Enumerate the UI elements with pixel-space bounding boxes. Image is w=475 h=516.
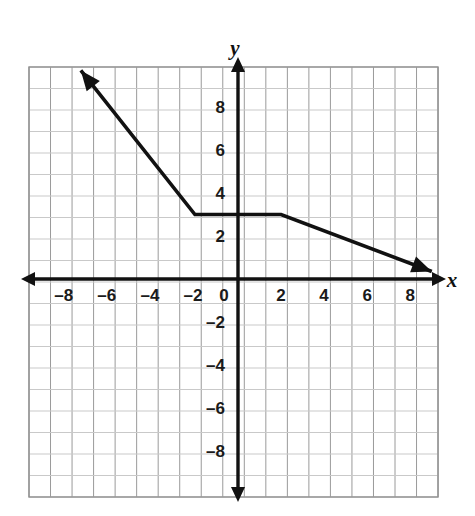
origin-label: 0 xyxy=(219,286,228,305)
x-tick-label: –8 xyxy=(54,286,73,305)
y-tick-label: –6 xyxy=(206,399,225,418)
y-tick-label: –8 xyxy=(206,442,225,461)
x-axis-label: x xyxy=(446,268,458,292)
y-tick-label: –2 xyxy=(206,313,225,332)
y-tick-label: 8 xyxy=(216,98,225,117)
coordinate-graph-figure: –8–6–4–22468 8642–2–4–6–8 0 x y xyxy=(0,0,475,516)
x-tick-label: –6 xyxy=(97,286,116,305)
graph-canvas: –8–6–4–22468 8642–2–4–6–8 0 x y xyxy=(0,0,475,516)
grid-lines xyxy=(29,67,438,497)
y-tick-label: –4 xyxy=(206,356,225,375)
y-tick-label: 2 xyxy=(216,227,225,246)
x-tick-label: 8 xyxy=(405,286,414,305)
x-tick-label: 6 xyxy=(362,286,371,305)
x-tick-label: –2 xyxy=(183,286,202,305)
y-tick-label: 4 xyxy=(216,184,226,203)
x-tick-label: 4 xyxy=(319,286,329,305)
x-tick-label: 2 xyxy=(276,286,285,305)
y-tick-label: 6 xyxy=(216,141,225,160)
x-tick-label: –4 xyxy=(140,286,159,305)
